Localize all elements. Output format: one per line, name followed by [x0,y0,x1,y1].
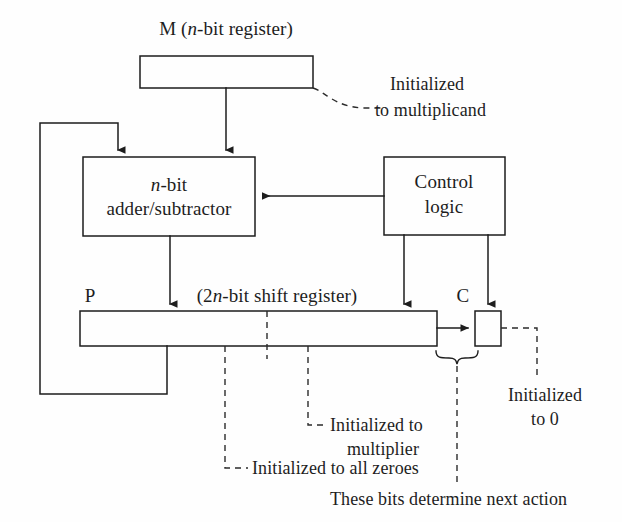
leader-all-zeroes [225,346,248,468]
annotation-next-action: These bits determine next action [330,489,567,510]
c-register-label: C [457,285,470,307]
m-register-box [140,56,313,88]
annotation-multiplicand-line1: Initialized [390,74,464,95]
shift-register-caption-n: n [213,285,223,306]
figure-canvas: M (n-bit register) n-bit adder/subtracto… [0,0,622,522]
leader-multiplier [308,346,327,425]
control-logic-label-line2: logic [425,196,464,218]
adder-label-line1: n-bit [151,174,187,196]
bits-brace [436,351,478,364]
adder-subtractor-box [83,157,255,236]
annotation-multiplier-line1: Initialized to [330,415,423,436]
control-logic-label-line1: Control [415,171,474,193]
annotation-carry-zero-line2: to 0 [531,409,559,430]
adder-label-n: n [151,174,161,195]
p-feedback-path [40,123,167,394]
leader-carry-zero [501,328,537,378]
m-register-title-n: n [187,18,197,39]
diagram-lines [0,0,622,522]
p-register-label: P [85,285,96,307]
shift-register-caption: (2n-bit shift register) [197,285,358,307]
annotation-carry-zero-line1: Initialized [508,385,582,406]
m-register-title: M (n-bit register) [159,18,293,40]
annotation-all-zeroes: Initialized to all zeroes [252,458,419,479]
p-register-box [80,311,437,346]
c-register-box [475,311,501,346]
adder-label-line2: adder/subtractor [106,198,231,220]
annotation-multiplicand-line2: to multiplicand [375,100,486,121]
